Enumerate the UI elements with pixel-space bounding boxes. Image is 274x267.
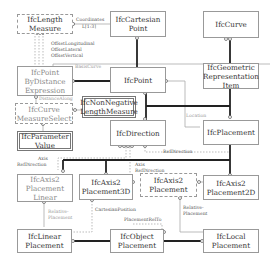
entity-non-negative-length-measure[interactable]: IfcNonNegative LengthMeasure <box>82 96 136 118</box>
label-axis-mid: Axis <box>135 162 145 167</box>
label-basis-curve: BasisCurve <box>75 64 101 69</box>
entity-geometric-representation-item[interactable]: IfcGeometric Representation Item <box>203 63 259 89</box>
entity-axis2-placement-3d[interactable]: IfcAxis2 Placement3D <box>79 174 133 200</box>
entity-local-placement[interactable]: IfcLocal Placement <box>203 229 259 253</box>
label-placement-rel-to: PlacementRelTo <box>124 217 162 222</box>
entity-linear-placement[interactable]: IfcLinear Placement <box>17 229 72 253</box>
label-coordinates: Coordinates <box>76 17 104 22</box>
entity-placement[interactable]: IfcPlacement <box>203 120 259 145</box>
label-offset-lateral: OffsetLateral <box>51 47 82 52</box>
entity-axis2-placement-linear[interactable]: IfcAxis2 Placement Linear <box>17 174 73 202</box>
label-relative-placement-left-2: Placement <box>48 215 72 220</box>
entity-curve[interactable]: IfcCurve <box>203 11 259 38</box>
label-refdirection-mid: RefDirection <box>135 168 165 173</box>
label-cartesian-position: CartesianPosition <box>95 207 136 212</box>
label-axis-left: Axis <box>38 156 48 161</box>
label-offset-vertical: OffsetVertical <box>51 53 83 58</box>
entity-parameter-value[interactable]: IfcParameter Value <box>17 131 73 151</box>
entity-axis2-placement-2d[interactable]: IfcAxis2 Placement2D <box>203 175 259 200</box>
entity-point-by-distance[interactable]: IfcPoint ByDistance Expression <box>17 66 73 96</box>
entity-direction[interactable]: IfcDirection <box>110 120 166 146</box>
entity-cartesian-point[interactable]: IfcCartesian Point <box>110 11 166 37</box>
label-ref-direction: RefDirection <box>163 149 193 154</box>
label-coordinates-cardinality: L[1:3] <box>82 24 96 29</box>
label-refdirection-left: RefDirection <box>17 162 47 167</box>
entity-axis2-placement[interactable]: IfcAxis2 Placement <box>140 173 197 197</box>
entity-curve-measure-select[interactable]: IfcCurve MeasureSelect <box>15 103 73 124</box>
entity-object-placement[interactable]: IfcObject Placement <box>110 229 164 253</box>
label-relative-placement-right-2: Placement <box>183 211 207 216</box>
entity-point[interactable]: IfcPoint <box>110 67 166 93</box>
label-relative-placement-left-1: Relative- <box>48 209 69 214</box>
label-distance-along: DistanceAlong <box>39 96 73 101</box>
label-location: Location <box>186 113 206 118</box>
label-offset-longitudinal: OffsetLongitudinal <box>51 41 95 46</box>
entity-length-measure[interactable]: IfcLength Measure <box>17 14 73 34</box>
label-relative-placement-right-1: Relative- <box>183 205 204 210</box>
